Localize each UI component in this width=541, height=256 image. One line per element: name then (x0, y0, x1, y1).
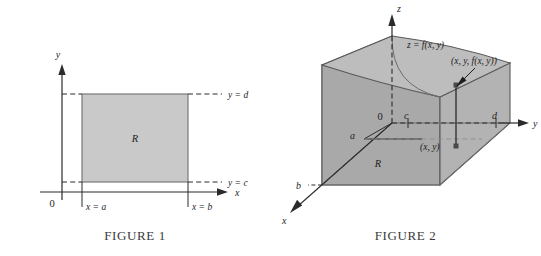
figures-container: y x 0 R y = d y = c x = a x = b FIGURE 1 (0, 0, 541, 256)
figure-2-region-label: R (374, 158, 382, 169)
figure-1-caption: FIGURE 1 (0, 228, 270, 244)
plane-point-marker (454, 144, 459, 149)
figure-2-y-axis-label: y (532, 118, 538, 129)
figure-1-region-label: R (131, 133, 139, 144)
label-tick-c: c (404, 110, 409, 121)
label-y-equals-c: y = c (227, 178, 248, 188)
plane-point-label: (x, y) (420, 142, 440, 153)
figure-2-origin-label: 0 (377, 111, 382, 122)
label-x-equals-a: x = a (85, 202, 106, 212)
figure-2-z-axis-label: z (396, 3, 401, 14)
figure-1-graphic: y x 0 R y = d y = c x = a x = b (0, 0, 270, 230)
surface-point-label: (x, y, f(x, y)) (451, 56, 497, 67)
figure-2-panel: z y x 0 a b c d z = f(x, y) (x, y, f(x, … (270, 0, 541, 256)
x-axis-arrowhead (290, 200, 302, 213)
y-axis-arrowhead (58, 64, 65, 75)
label-x-equals-b: x = b (191, 202, 212, 212)
surface-equation-label: z = f(x, y) (406, 40, 444, 51)
figure-2-x-axis-label: x (281, 215, 287, 226)
label-y-equals-d: y = d (227, 90, 248, 100)
figure-2-caption: FIGURE 2 (270, 228, 541, 244)
y-axis-arrowhead (518, 119, 529, 126)
z-axis-arrowhead (388, 14, 395, 26)
label-tick-a: a (350, 130, 355, 141)
figure-1-origin-label: 0 (49, 198, 54, 209)
figure-1-y-axis-label: y (55, 49, 61, 60)
figure-1-x-axis-label: x (234, 187, 240, 198)
x-axis-arrowhead (217, 188, 228, 195)
figure-1-panel: y x 0 R y = d y = c x = a x = b FIGURE 1 (0, 0, 270, 256)
label-tick-b: b (296, 180, 301, 191)
figure-2-graphic: z y x 0 a b c d z = f(x, y) (x, y, f(x, … (270, 0, 541, 230)
